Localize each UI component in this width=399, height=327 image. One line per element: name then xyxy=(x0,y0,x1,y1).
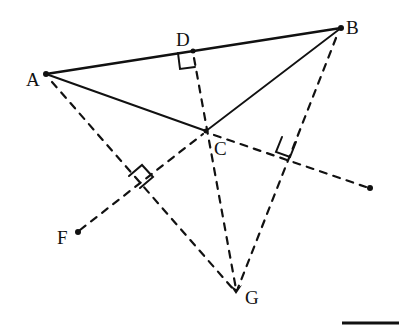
point-g-arrow xyxy=(230,285,242,294)
point-a xyxy=(43,71,49,77)
segment-dg xyxy=(194,58,236,289)
label-a: A xyxy=(26,69,40,90)
segment-bg xyxy=(238,38,336,288)
point-d xyxy=(191,49,196,54)
point-f xyxy=(75,229,81,235)
geometry-diagram: A B C D F G xyxy=(0,0,399,327)
point-c xyxy=(204,129,209,134)
label-g: G xyxy=(245,287,259,308)
point-b xyxy=(338,25,344,31)
segment-ce xyxy=(214,135,366,187)
label-f: F xyxy=(57,227,68,248)
point-e xyxy=(367,185,373,191)
right-angle-mark-bg xyxy=(276,137,296,157)
label-b: B xyxy=(346,17,359,38)
label-c: C xyxy=(214,138,227,159)
label-d: D xyxy=(176,29,190,50)
segment-fc xyxy=(80,134,203,230)
right-angle-mark-d xyxy=(178,53,195,69)
